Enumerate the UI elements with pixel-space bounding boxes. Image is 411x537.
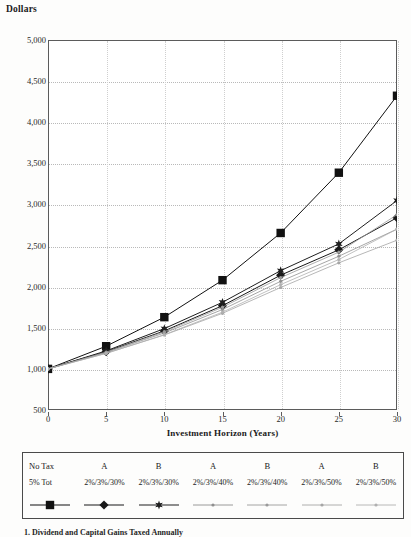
data-point-dot — [163, 330, 166, 333]
data-point-dot — [337, 255, 340, 258]
data-point-dot — [221, 306, 224, 309]
y-axis-tick-label: 2,000 — [2, 282, 46, 292]
legend-subheader-2: 2%/3%/30% — [132, 478, 186, 487]
legend-header-5: A — [294, 457, 348, 471]
data-point-star — [335, 240, 343, 249]
series-line — [48, 201, 397, 369]
legend-swatch-5[interactable] — [294, 490, 348, 520]
data-point-dot — [221, 311, 224, 314]
legend: No TaxABABAB5% Tot2%/3%/30%2%/3%/30%2%/3… — [22, 452, 404, 519]
series-2 — [48, 196, 397, 373]
data-point-dot — [211, 503, 214, 506]
figure-caption: 1. Dividend and Capital Gains Taxed Annu… — [24, 528, 404, 537]
data-point-dot — [337, 258, 340, 261]
legend-subheader-1: 2%/3%/30% — [77, 478, 131, 487]
x-axis-tick-label: 25 — [335, 414, 344, 424]
y-axis-tick-label: 5,000 — [2, 35, 46, 45]
y-axis-ticks: 5001,0001,5002,0002,5003,0003,5004,0004,… — [0, 40, 46, 410]
series-0 — [48, 92, 397, 374]
data-point-dot — [320, 503, 323, 506]
legend-subheader-4: 2%/3%/40% — [240, 478, 294, 487]
data-point-dot — [395, 239, 397, 242]
legend-subheader-6: 2%/3%/50% — [349, 478, 403, 487]
legend-header-2: B — [132, 457, 186, 471]
legend-subheader-0: 5% Tot — [23, 478, 77, 487]
data-point-square — [218, 276, 226, 284]
legend-header-1: A — [77, 457, 131, 471]
chart-canvas — [48, 40, 397, 410]
series-1 — [48, 213, 397, 373]
x-axis-title: Investment Horizon (Years) — [48, 428, 397, 438]
data-point-dot — [337, 251, 340, 254]
y-axis-tick-label: 2,500 — [2, 241, 46, 251]
legend-marker-icon — [298, 497, 346, 513]
data-point-dot — [163, 333, 166, 336]
data-point-star — [393, 196, 397, 205]
y-axis-tick-label: 4,000 — [2, 117, 46, 127]
legend-marker-icon — [243, 497, 291, 513]
data-point-dot — [266, 503, 269, 506]
legend-marker-icon — [189, 497, 237, 513]
legend-header-3: A — [186, 457, 240, 471]
legend-swatch-2[interactable] — [132, 490, 186, 520]
data-point-dot — [279, 283, 282, 286]
legend-marker-icon — [26, 497, 74, 513]
data-point-diamond — [100, 500, 109, 509]
x-axis-tick-label: 15 — [218, 414, 227, 424]
x-axis-tick-label: 5 — [104, 414, 108, 424]
series-line — [48, 215, 397, 369]
data-point-dot — [279, 280, 282, 283]
data-point-dot — [337, 261, 340, 264]
series-line — [48, 218, 397, 369]
data-point-dot — [279, 286, 282, 289]
x-axis-tick-label: 10 — [160, 414, 169, 424]
y-axis-tick-label: 500 — [2, 405, 46, 415]
y-axis-tick-label: 1,500 — [2, 323, 46, 333]
data-point-dot — [105, 352, 108, 355]
legend-header-6: B — [349, 457, 403, 471]
y-axis-title: Dollars — [6, 4, 37, 14]
legend-swatch-6[interactable] — [349, 490, 403, 520]
legend-header-4: B — [240, 457, 294, 471]
legend-subheader-3: 2%/3%/40% — [186, 478, 240, 487]
y-axis-tick-label: 4,500 — [2, 76, 46, 86]
data-point-dot — [279, 276, 282, 279]
legend-swatch-1[interactable] — [77, 490, 131, 520]
gridline-vertical — [398, 41, 399, 409]
x-axis-tick-label: 20 — [276, 414, 285, 424]
data-point-square — [46, 501, 54, 509]
x-axis-tick-label: 30 — [393, 414, 402, 424]
y-axis-tick-label: 3,500 — [2, 158, 46, 168]
legend-swatch-4[interactable] — [240, 490, 294, 520]
data-point-dot — [374, 503, 377, 506]
data-point-square — [335, 169, 343, 177]
x-axis-tick-label: 0 — [46, 414, 50, 424]
legend-header-0: No Tax — [23, 457, 77, 471]
legend-marker-icon — [352, 497, 400, 513]
legend-swatch-3[interactable] — [186, 490, 240, 520]
x-axis-ticks: 051015202530 — [48, 412, 397, 428]
data-point-square — [393, 92, 397, 100]
data-point-square — [276, 229, 284, 237]
series-4 — [48, 213, 397, 370]
y-axis-tick-label: 1,000 — [2, 364, 46, 374]
legend-swatch-0[interactable] — [23, 490, 77, 520]
chart-page: Dollars 5001,0001,5002,0002,5003,0003,50… — [0, 0, 411, 537]
data-point-square — [160, 313, 168, 321]
y-axis-tick-label: 3,000 — [2, 199, 46, 209]
legend-marker-icon — [135, 497, 183, 513]
legend-marker-icon — [80, 497, 128, 513]
legend-subheader-5: 2%/3%/50% — [294, 478, 348, 487]
series-line — [48, 96, 397, 369]
